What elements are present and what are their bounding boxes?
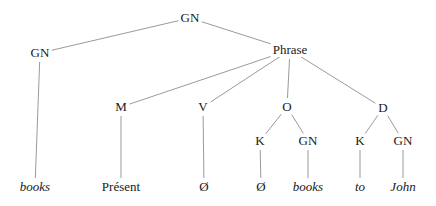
tree-edge-k_o-leaf_null_k	[260, 150, 261, 178]
tree-node-leaf-books1: books	[18, 180, 52, 194]
tree-node-leaf-john: John	[388, 180, 417, 194]
tree-node-v: V	[196, 100, 209, 114]
tree-node-gn-o: GN	[297, 134, 320, 148]
tree-edge-gn_root-gn_left	[49, 20, 181, 51]
tree-edge-phrase-v	[211, 55, 283, 102]
tree-edge-phrase-m	[130, 53, 282, 104]
tree-node-m: M	[113, 100, 129, 114]
tree-node-leaf-present: Présent	[100, 180, 142, 194]
tree-node-k-o: K	[253, 134, 266, 148]
tree-edge-phrase-o	[287, 59, 289, 98]
tree-node-gn-left: GN	[29, 46, 52, 60]
tree-edge-d-k_d	[365, 115, 378, 133]
tree-edge-o-k_o	[266, 114, 282, 134]
tree-node-gn-root: GN	[179, 11, 202, 25]
tree-edge-o-gn_o	[292, 115, 304, 134]
tree-node-leaf-null-v: Ø	[197, 180, 210, 194]
tree-node-leaf-to: to	[353, 180, 367, 194]
tree-edge-phrase-d	[298, 55, 376, 103]
tree-node-o: O	[280, 100, 293, 114]
tree-node-leaf-null-k: Ø	[254, 180, 267, 194]
tree-node-leaf-books2: books	[291, 180, 325, 194]
tree-node-gn-d: GN	[392, 134, 415, 148]
tree-node-phrase: Phrase	[271, 43, 310, 57]
tree-node-d: D	[376, 101, 389, 115]
tree-edge-gn_left-leaf_books1	[35, 62, 39, 178]
tree-edges	[0, 0, 436, 206]
tree-edge-gn_root-phrase	[199, 21, 282, 48]
tree-node-k-d: K	[353, 134, 366, 148]
tree-edge-d-gn_d	[388, 116, 399, 134]
syntax-tree-diagram: GNGNPhraseMVODKGNKGNbooksPrésentØØbookst…	[0, 0, 436, 206]
tree-edge-v-leaf_null_v	[203, 116, 204, 178]
